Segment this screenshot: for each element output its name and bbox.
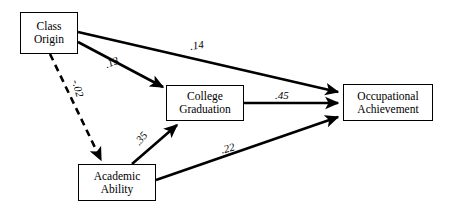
node-label-line1: Class <box>37 20 62 33</box>
node-label-line2: Origin <box>34 33 64 46</box>
path-diagram: Class Origin College Graduation Occupati… <box>0 0 449 214</box>
edge-origin-to-ability <box>50 54 101 160</box>
node-label-line2: Achievement <box>357 103 418 116</box>
path-coefficient-college-to-occupation: .45 <box>275 90 289 101</box>
edge-ability-to-occupation <box>156 117 338 180</box>
node-label-line1: College <box>187 90 223 103</box>
path-coefficient-origin-to-occupation: .14 <box>189 39 204 52</box>
node-label-line1: Academic <box>94 170 141 183</box>
node-class-origin[interactable]: Class Origin <box>20 12 78 54</box>
node-occupational-achievement[interactable]: Occupational Achievement <box>343 84 433 121</box>
node-college-graduation[interactable]: College Graduation <box>166 85 244 121</box>
node-academic-ability[interactable]: Academic Ability <box>78 164 156 201</box>
node-label-line2: Ability <box>101 183 134 196</box>
node-label-line2: Graduation <box>179 103 231 116</box>
node-label-line1: Occupational <box>357 90 418 103</box>
